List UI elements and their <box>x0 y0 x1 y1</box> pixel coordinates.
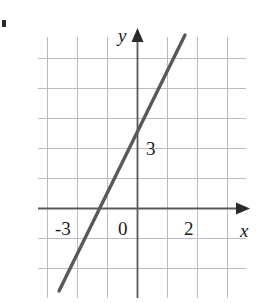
y-axis <box>132 28 144 298</box>
coordinate-plane: y x -3 0 2 3 <box>0 0 264 303</box>
y-axis-label: y <box>116 25 127 46</box>
bullet-mark-icon <box>2 20 6 27</box>
graph-figure: y x -3 0 2 3 <box>0 0 264 303</box>
x-axis-label: x <box>239 220 249 241</box>
x-tick-label-neg3: -3 <box>55 218 71 239</box>
x-tick-label-2: 2 <box>184 218 194 239</box>
y-tick-label-3: 3 <box>146 138 156 159</box>
x-axis <box>38 203 250 215</box>
x-tick-label-0: 0 <box>118 218 128 239</box>
